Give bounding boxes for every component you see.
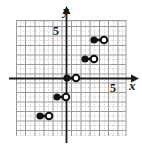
closed-point	[63, 74, 70, 81]
closed-point	[53, 93, 60, 100]
open-point	[46, 113, 53, 120]
x-axis-label: x	[129, 79, 136, 92]
open-point	[73, 75, 80, 82]
open-point	[101, 37, 108, 44]
step-function-figure: y x 5 5	[0, 0, 142, 148]
y-axis-label: y	[63, 4, 69, 17]
coordinate-plane	[0, 0, 142, 148]
closed-point	[36, 112, 43, 119]
closed-point	[81, 55, 88, 62]
closed-point	[90, 36, 97, 43]
y-axis-tick-label-5: 5	[53, 25, 59, 37]
x-axis-tick-label-5: 5	[110, 82, 116, 94]
open-point	[91, 56, 98, 63]
open-point	[63, 94, 70, 101]
